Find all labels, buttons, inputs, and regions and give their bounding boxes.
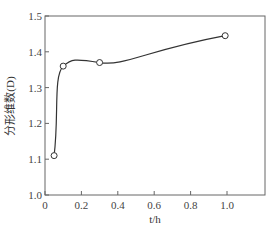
svg-text:1.2: 1.2	[28, 117, 42, 129]
svg-text:0.2: 0.2	[75, 199, 89, 211]
x-axis-label: t/h	[149, 213, 161, 225]
y-axis-ticks: 1.01.11.21.31.41.5	[28, 10, 49, 201]
svg-text:0: 0	[42, 199, 48, 211]
y-axis-label: 分形维数(D)	[4, 76, 17, 136]
svg-text:1.1: 1.1	[28, 153, 42, 165]
data-markers	[51, 33, 228, 159]
svg-text:1.5: 1.5	[28, 10, 42, 22]
svg-text:0.8: 0.8	[184, 199, 198, 211]
svg-text:0.4: 0.4	[111, 199, 125, 211]
svg-text:1.4: 1.4	[28, 46, 42, 58]
data-curve	[54, 36, 225, 156]
plot-frame	[45, 16, 265, 195]
svg-text:1.0: 1.0	[28, 189, 42, 201]
x-axis-ticks: 00.20.40.60.81.0	[42, 191, 234, 211]
chart: 1.01.11.21.31.41.5 00.20.40.60.81.0 t/h …	[0, 0, 275, 237]
svg-text:0.6: 0.6	[147, 199, 161, 211]
svg-text:1.0: 1.0	[220, 199, 234, 211]
svg-text:1.3: 1.3	[28, 82, 42, 94]
